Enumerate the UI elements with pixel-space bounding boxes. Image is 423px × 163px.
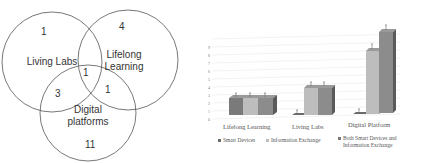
legend-label-information-exchange: Information Exchange <box>271 137 320 143</box>
all-three-count: 1 <box>83 67 89 78</box>
legend-swatch-both <box>338 137 341 140</box>
y-tick-0: 0 <box>204 117 210 122</box>
y-tick-3: 3 <box>204 93 210 98</box>
y-tick-6: 6 <box>204 69 210 74</box>
y-tick-8: 8 <box>204 53 210 58</box>
legend-swatch-information-exchange <box>266 139 269 142</box>
lifelong-label-line1: Lifelong <box>106 49 141 60</box>
digital-platform-bars <box>353 25 396 114</box>
venn-circles <box>0 0 200 163</box>
lifelong-digital-count: 1 <box>105 84 111 95</box>
legend-label-both-line2: Information Exchange <box>338 142 392 148</box>
y-tick-1: 1 <box>204 109 210 114</box>
x-label-digital-platform: Digital Platform <box>348 121 390 128</box>
lifelong-learning-label: Lifelong Learning <box>104 49 144 73</box>
digital-platforms-label: Digital platforms <box>66 104 110 128</box>
y-tick-4: 4 <box>204 85 210 90</box>
x-label-living-labs: Living Labs <box>292 123 324 130</box>
bar-chart: 0 1 2 3 4 5 6 7 8 9 Lifelong Learning Li… <box>200 20 423 163</box>
living-labs-bars <box>292 82 335 115</box>
living-labs-only-count: 1 <box>41 26 47 37</box>
y-tick-5: 5 <box>204 77 210 82</box>
living-labs-label: Living Labs <box>24 56 80 68</box>
legend-smart-devices: Smart Devices <box>218 137 255 144</box>
y-tick-7: 7 <box>204 61 210 66</box>
y-tick-9: 9 <box>204 45 210 50</box>
venn-diagram: 1 Living Labs 4 Lifelong Learning 1 3 1 … <box>0 0 200 163</box>
digital-label-line2: platforms <box>67 116 108 127</box>
legend-information-exchange: Information Exchange <box>266 137 320 144</box>
x-label-lifelong-learning: Lifelong Learning <box>223 123 270 130</box>
digital-label-line1: Digital <box>74 104 102 115</box>
legend-both: Both Smart Devices and Information Excha… <box>338 135 397 148</box>
legend-label-smart-devices: Smart Devices <box>223 137 255 143</box>
lifelong-label-line2: Learning <box>105 61 144 72</box>
legend-label-both-line1: Both Smart Devices and <box>343 135 397 141</box>
lifelong-learning-bars <box>229 93 277 115</box>
lifelong-learning-only-count: 4 <box>119 21 125 32</box>
livinglabs-digital-count: 3 <box>55 88 61 99</box>
digital-platforms-only-count: 11 <box>85 139 95 150</box>
y-tick-2: 2 <box>204 101 210 106</box>
legend-swatch-smart-devices <box>218 139 221 142</box>
